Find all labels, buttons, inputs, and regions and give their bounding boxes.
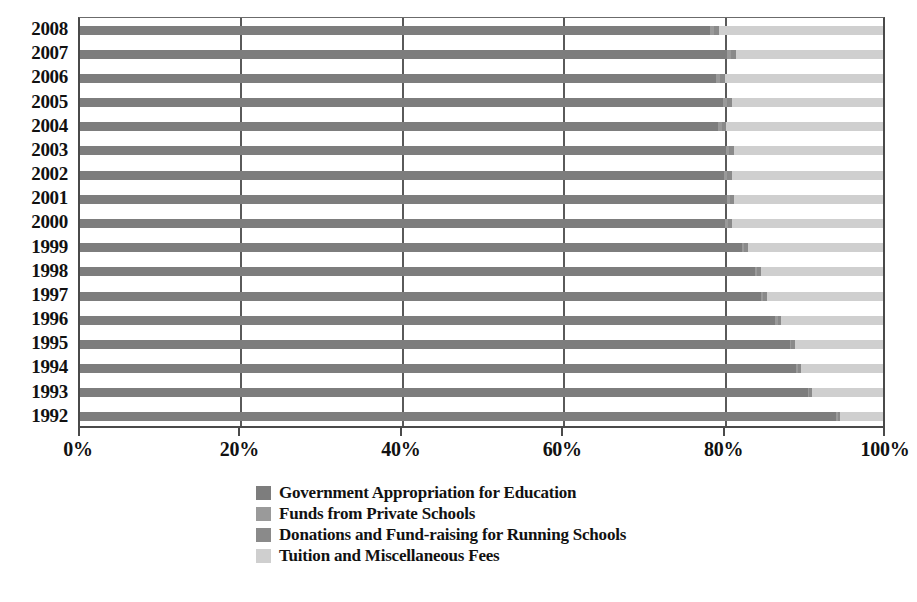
bar-rows [80, 18, 883, 426]
bar-row [80, 308, 883, 332]
bar-segment [80, 74, 716, 83]
x-axis-tick [400, 428, 402, 436]
bar-track-2002 [80, 171, 883, 180]
bar-track-2006 [80, 74, 883, 83]
legend-swatch-icon [256, 507, 271, 521]
x-axis-label-0pct: 0% [63, 438, 92, 461]
bar-track-2000 [80, 219, 883, 228]
x-axis-label-40pct: 40% [381, 438, 420, 461]
bar-segment [80, 412, 836, 421]
bar-segment [80, 340, 790, 349]
x-axis-tick [561, 428, 563, 436]
y-axis-label-1998: 1998 [31, 259, 68, 283]
x-axis-tick [78, 428, 80, 436]
bar-segment [80, 267, 755, 276]
bar-track-2003 [80, 146, 883, 155]
bar-track-1995 [80, 340, 883, 349]
bar-row [80, 332, 883, 356]
y-axis-label-1999: 1999 [31, 235, 68, 259]
bar-track-1996 [80, 316, 883, 325]
bar-segment [734, 195, 883, 204]
legend-swatch-icon [256, 549, 271, 563]
bar-track-1993 [80, 388, 883, 397]
bar-row [80, 163, 883, 187]
bar-segment [80, 171, 724, 180]
bar-segment [80, 98, 723, 107]
bar-track-1999 [80, 243, 883, 252]
x-axis-label-60pct: 60% [543, 438, 582, 461]
bar-track-2001 [80, 195, 883, 204]
bar-row [80, 211, 883, 235]
bar-segment [719, 26, 883, 35]
bar-row [80, 91, 883, 115]
plot-area [78, 17, 885, 428]
bar-track-1998 [80, 267, 883, 276]
bar-row [80, 66, 883, 90]
bar-track-1994 [80, 364, 883, 373]
bar-segment [80, 316, 775, 325]
bar-segment [840, 412, 883, 421]
bar-row [80, 139, 883, 163]
bar-segment [732, 219, 883, 228]
legend-label: Funds from Private Schools [279, 504, 475, 523]
y-axis-label-2003: 2003 [31, 138, 68, 162]
bar-segment [734, 146, 883, 155]
legend-item[interactable]: Government Appropriation for Education [256, 483, 726, 502]
legend-item[interactable]: Donations and Fund-raising for Running S… [256, 525, 726, 544]
bar-track-1992 [80, 412, 883, 421]
legend-swatch-icon [256, 528, 271, 542]
bar-segment [725, 74, 883, 83]
x-axis-tick [883, 428, 885, 436]
y-axis-label-2008: 2008 [31, 17, 68, 41]
bar-segment [732, 98, 883, 107]
chart-legend: Government Appropriation for EducationFu… [256, 483, 726, 567]
bar-segment [80, 195, 727, 204]
bar-row [80, 260, 883, 284]
y-axis-label-2006: 2006 [31, 65, 68, 89]
bar-segment [767, 292, 883, 301]
y-axis-label-2005: 2005 [31, 90, 68, 114]
stacked-bar-chart: 2008200720062005200420032002200120001999… [0, 0, 917, 602]
y-axis-label-1996: 1996 [31, 307, 68, 331]
y-axis-label-2007: 2007 [31, 41, 68, 65]
x-axis-label-80pct: 80% [704, 438, 743, 461]
bar-row [80, 381, 883, 405]
legend-item[interactable]: Tuition and Miscellaneous Fees [256, 546, 726, 565]
x-axis-label-100pct: 100% [861, 438, 910, 461]
y-axis: 2008200720062005200420032002200120001999… [0, 17, 74, 428]
x-axis-tick [723, 428, 725, 436]
bar-row [80, 187, 883, 211]
bar-segment [80, 26, 710, 35]
y-axis-label-2001: 2001 [31, 186, 68, 210]
y-axis-label-2000: 2000 [31, 210, 68, 234]
x-axis-label-20pct: 20% [220, 438, 259, 461]
legend-label: Government Appropriation for Education [279, 483, 576, 502]
bar-segment [736, 50, 883, 59]
bar-segment [80, 50, 727, 59]
legend-item[interactable]: Funds from Private Schools [256, 504, 726, 523]
x-axis-tick [238, 428, 240, 436]
y-axis-label-1992: 1992 [31, 404, 68, 428]
legend-label: Donations and Fund-raising for Running S… [279, 525, 626, 544]
y-axis-label-1997: 1997 [31, 283, 68, 307]
legend-label: Tuition and Miscellaneous Fees [279, 546, 500, 565]
y-axis-label-2002: 2002 [31, 162, 68, 186]
bar-segment [748, 243, 883, 252]
bar-track-2005 [80, 98, 883, 107]
bar-track-2008 [80, 26, 883, 35]
bar-segment [801, 364, 883, 373]
bar-segment [80, 388, 808, 397]
y-axis-label-2004: 2004 [31, 114, 68, 138]
bar-row [80, 236, 883, 260]
bar-track-2007 [80, 50, 883, 59]
bar-track-1997 [80, 292, 883, 301]
bar-segment [732, 171, 883, 180]
bar-segment [80, 122, 718, 131]
bar-row [80, 18, 883, 42]
bar-row [80, 42, 883, 66]
bar-row [80, 405, 883, 429]
y-axis-label-1995: 1995 [31, 331, 68, 355]
bar-segment [761, 267, 883, 276]
y-axis-label-1993: 1993 [31, 380, 68, 404]
bar-segment [80, 243, 742, 252]
